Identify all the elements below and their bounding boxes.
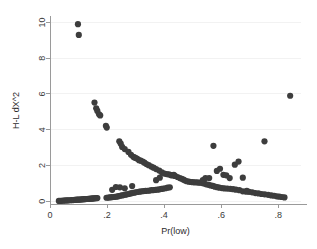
data-point: [76, 32, 82, 38]
data-point: [210, 143, 216, 149]
x-tick-label: .6: [217, 210, 225, 220]
data-points-group: [56, 21, 294, 204]
data-point: [235, 158, 241, 164]
x-tick-label: .2: [103, 210, 111, 220]
y-tick-label: 10: [37, 17, 47, 27]
y-axis-title: H-L dX^2: [11, 92, 21, 129]
x-tick-label: 0: [47, 210, 52, 220]
data-point: [157, 175, 163, 181]
y-tick-label: 4: [37, 127, 47, 132]
x-axis-ticks-group: 0.2.4.6.8: [47, 204, 281, 220]
y-tick-label: 6: [37, 91, 47, 96]
data-point: [104, 124, 110, 130]
x-axis-title: Pr(low): [161, 226, 190, 236]
data-point: [244, 188, 250, 194]
data-point: [206, 175, 212, 181]
data-point: [97, 112, 103, 118]
data-point: [217, 166, 223, 172]
x-tick-label: .8: [274, 210, 282, 220]
data-point: [167, 184, 173, 190]
scatter-chart-figure: 0246810 0.2.4.6.8 H-L dX^2 Pr(low): [0, 0, 317, 249]
data-point: [122, 185, 128, 191]
x-tick-label: .4: [160, 210, 168, 220]
data-point: [240, 175, 246, 181]
y-tick-label: 2: [37, 163, 47, 168]
data-point: [129, 183, 135, 189]
data-point: [287, 93, 293, 99]
data-point: [91, 99, 97, 105]
data-point: [171, 172, 177, 178]
data-point: [94, 195, 100, 201]
data-point: [281, 194, 287, 200]
chart-canvas: 0246810 0.2.4.6.8 H-L dX^2 Pr(low): [0, 0, 317, 249]
y-tick-label: 8: [37, 56, 47, 61]
y-tick-label: 0: [37, 199, 47, 204]
data-point: [75, 21, 81, 27]
y-axis-ticks-group: 0246810: [37, 17, 50, 203]
data-point: [261, 138, 267, 144]
data-point: [227, 175, 233, 181]
